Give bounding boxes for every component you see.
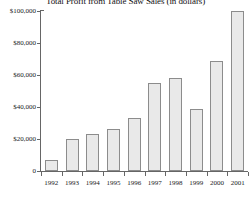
bar-1992	[45, 160, 58, 171]
x-axis-tick-label: 1992	[41, 179, 62, 187]
x-axis-tick-label: 1997	[145, 179, 166, 187]
x-axis-tick	[103, 172, 104, 176]
x-axis-tick-label: 1998	[165, 179, 186, 187]
x-axis-tick-label: 1993	[62, 179, 83, 187]
x-axis-tick-label: 1994	[82, 179, 103, 187]
bar-1995	[107, 129, 120, 171]
x-axis-tick	[248, 172, 249, 176]
x-axis-tick	[227, 172, 228, 176]
y-axis-tick-label: $20,000	[13, 136, 36, 143]
bar-2000	[210, 61, 223, 171]
x-axis-tick-label: 1996	[124, 179, 145, 187]
y-axis-tick-label: $100,000	[10, 8, 36, 15]
bar-2001	[231, 11, 244, 171]
chart-title: Total Profit from Table Saw Sales (in do…	[0, 0, 251, 6]
x-axis-tick-label: 2001	[227, 179, 248, 187]
bar-1999	[190, 109, 203, 171]
bar-1994	[86, 134, 99, 171]
x-axis-tick-label: 2000	[207, 179, 228, 187]
x-axis-tick	[124, 172, 125, 176]
y-axis-tick-label: $40,000	[13, 104, 36, 111]
y-axis-tick-label: $60,000	[13, 72, 36, 79]
x-axis-tick-label: 1999	[186, 179, 207, 187]
bar-1996	[128, 118, 141, 171]
x-axis-tick	[82, 172, 83, 176]
x-axis-tick	[186, 172, 187, 176]
bar-1993	[66, 139, 79, 171]
x-axis-tick	[165, 172, 166, 176]
bar-chart: Total Profit from Table Saw Sales (in do…	[0, 0, 251, 201]
bar-1997	[148, 83, 161, 171]
x-axis-tick	[41, 172, 42, 176]
bar-1998	[169, 78, 182, 171]
x-axis-tick-label: 1995	[103, 179, 124, 187]
bars-layer	[41, 11, 248, 171]
y-axis-tick-label: 0	[33, 168, 37, 175]
x-axis-tick	[145, 172, 146, 176]
x-axis-tick	[62, 172, 63, 176]
x-axis-tick	[207, 172, 208, 176]
y-axis-labels: $100,000 $80,000 $60,000 $40,000 $20,000…	[0, 0, 36, 201]
y-axis-tick-label: $80,000	[13, 40, 36, 47]
